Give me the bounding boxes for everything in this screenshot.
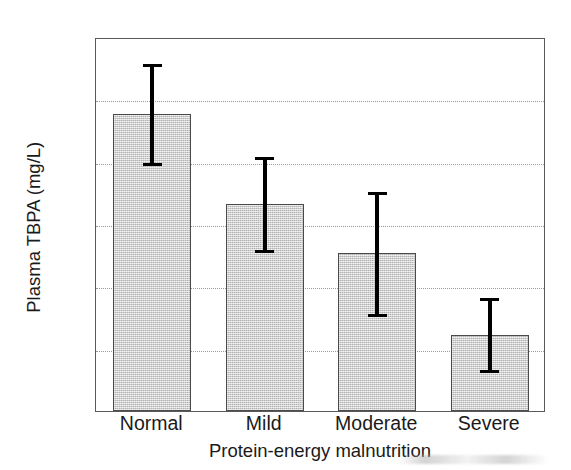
- error-bar-cap-upper: [143, 64, 162, 67]
- error-bar: [365, 192, 389, 317]
- y-axis-tick-labels: 050100150200250300: [0, 0, 88, 470]
- plot-area: [95, 38, 545, 412]
- error-bar: [478, 298, 502, 373]
- error-bar-cap-upper: [368, 192, 387, 195]
- error-bar: [253, 157, 277, 253]
- error-bar-stem: [263, 157, 267, 253]
- error-bar-cap-upper: [480, 298, 499, 301]
- error-bar-cap-upper: [255, 157, 274, 160]
- error-bar-stem: [488, 298, 492, 373]
- error-bar-cap-lower: [143, 163, 162, 166]
- x-axis-tick-label: Severe: [409, 414, 569, 434]
- error-bar-stem: [150, 64, 154, 166]
- error-bar-cap-lower: [255, 250, 274, 253]
- error-bar: [140, 64, 164, 166]
- error-bars: [96, 39, 544, 411]
- bar-chart-figure: 050100150200250300 Plasma TBPA (mg/L) No…: [0, 0, 571, 470]
- error-bar-cap-lower: [480, 370, 499, 373]
- scan-artifact: [398, 455, 548, 464]
- error-bar-cap-lower: [368, 314, 387, 317]
- y-axis-title: Plasma TBPA (mg/L): [25, 112, 44, 342]
- error-bar-stem: [375, 192, 379, 317]
